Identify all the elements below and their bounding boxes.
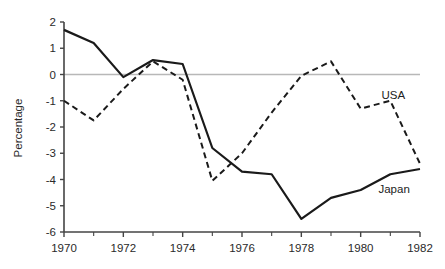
y-tick-label: -4 — [46, 174, 57, 186]
y-tick-label: 0 — [50, 69, 56, 81]
x-axis: 1970197219741976197819801982 — [51, 232, 433, 254]
x-tick-label: 1978 — [289, 242, 315, 254]
data-series-group — [64, 30, 420, 219]
y-tick-label: 2 — [50, 16, 56, 28]
series-label-usa: USA — [381, 89, 405, 101]
y-tick-label: -1 — [46, 95, 56, 107]
x-tick-label: 1970 — [51, 242, 77, 254]
y-axis: 210-1-2-3-4-5-6 — [46, 16, 64, 238]
y-tick-label: 1 — [50, 42, 56, 54]
y-tick-label: -2 — [46, 121, 56, 133]
chart-container: 210-1-2-3-4-5-6 197019721974197619781980… — [0, 0, 445, 269]
y-tick-label: -3 — [46, 147, 56, 159]
y-axis-tick-labels: 210-1-2-3-4-5-6 — [46, 16, 57, 238]
x-tick-label: 1980 — [348, 242, 374, 254]
x-tick-label: 1972 — [111, 242, 137, 254]
series-line-japan — [64, 30, 420, 219]
line-chart: 210-1-2-3-4-5-6 197019721974197619781980… — [0, 0, 445, 269]
x-tick-label: 1976 — [229, 242, 255, 254]
y-tick-label: -6 — [46, 226, 56, 238]
series-label-japan: Japan — [378, 183, 409, 195]
x-tick-label: 1974 — [170, 242, 196, 254]
y-axis-title: Percentage — [12, 99, 24, 158]
series-line-usa — [64, 61, 420, 180]
x-tick-label: 1982 — [407, 242, 433, 254]
y-tick-label: -5 — [46, 200, 56, 212]
x-axis-tick-labels: 1970197219741976197819801982 — [51, 242, 433, 254]
